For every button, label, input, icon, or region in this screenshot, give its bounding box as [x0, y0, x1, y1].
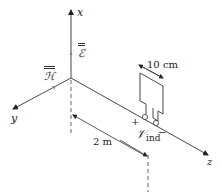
loop-width-label: 10 cm: [147, 60, 178, 70]
z-axis: [71, 78, 208, 155]
y-axis: [13, 78, 71, 109]
y-axis-label: y: [11, 113, 17, 124]
terminal-plus: [142, 114, 147, 119]
distance-label: 2 m: [93, 137, 112, 147]
z-axis-label: z: [207, 157, 212, 167]
magnetic-field-label: ℋ: [44, 71, 55, 82]
distance-arrow-line: [120, 140, 147, 156]
electric-field-label: ℰ: [78, 48, 85, 59]
wire-loop: [140, 73, 163, 121]
plus-label: +: [131, 117, 139, 127]
x-axis-label: x: [77, 7, 83, 18]
induced-voltage-label: 𝒱ind: [136, 128, 160, 140]
e-field-arrow-icon: [70, 51, 73, 55]
diagram-lines: [0, 0, 221, 194]
distance-arrow-start: [73, 115, 110, 136]
terminal-minus: [153, 120, 158, 125]
diagram-canvas: x y z ℰ ℋ 10 cm + − 𝒱ind 2 m: [0, 0, 221, 194]
